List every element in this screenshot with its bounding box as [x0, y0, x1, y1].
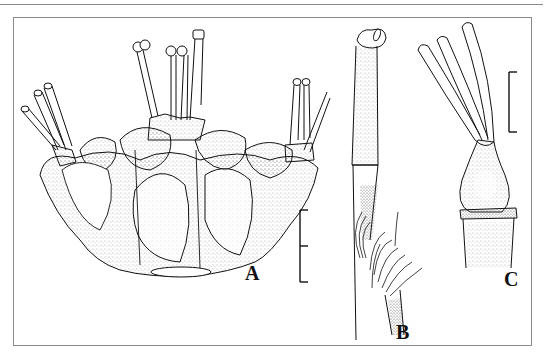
stamens-left [21, 83, 76, 166]
scale-bar-a [300, 210, 308, 282]
panel-label-a: A [245, 263, 259, 283]
panel-b-stamen [352, 28, 422, 340]
stamens-center [133, 30, 205, 140]
scale-bar-c [509, 72, 517, 132]
botanical-illustration [0, 0, 545, 357]
panel-label-c: C [504, 269, 518, 289]
panel-a-flower [21, 30, 330, 277]
panel-c-gynoecium [418, 23, 517, 268]
panel-label-b: B [396, 322, 409, 342]
